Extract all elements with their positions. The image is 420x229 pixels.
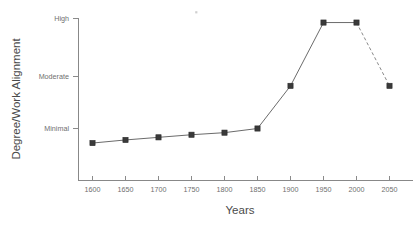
line-chart-svg: High Moderate Minimal 1600 1650 1700 175…: [0, 0, 420, 229]
x-axis-ticks: 1600 1650 1700 1750 1800 1850 1900 1950 …: [85, 176, 398, 195]
series-segment-1800-1850: [225, 129, 258, 133]
series-segment-1700-1750: [159, 135, 192, 138]
y-tick-label-high: High: [54, 14, 69, 23]
series-segment-1750-1800: [192, 133, 225, 135]
data-point-1600[interactable]: [90, 140, 95, 145]
y-tick-label-moderate: Moderate: [39, 72, 69, 81]
data-point-1850[interactable]: [255, 126, 260, 131]
series-segment-1650-1700: [126, 137, 159, 140]
x-tick-label-1700: 1700: [151, 185, 167, 194]
chart-container: High Moderate Minimal 1600 1650 1700 175…: [0, 0, 420, 229]
x-tick-label-1600: 1600: [85, 185, 101, 194]
data-point-1700[interactable]: [156, 135, 161, 140]
x-tick-label-2050: 2050: [382, 185, 398, 194]
data-point-1900[interactable]: [288, 83, 293, 88]
series-segment-2000-2050: [357, 23, 390, 86]
y-axis-title: Degree/Work Alignment: [10, 38, 22, 160]
data-point-1750[interactable]: [189, 132, 194, 137]
data-point-1800[interactable]: [222, 130, 227, 135]
y-axis-ticks: High Moderate Minimal: [39, 14, 79, 133]
data-point-2000[interactable]: [354, 20, 359, 25]
data-point-1950[interactable]: [321, 20, 326, 25]
x-tick-label-1650: 1650: [118, 185, 134, 194]
data-point-2050[interactable]: [387, 83, 392, 88]
x-tick-label-2000: 2000: [349, 185, 365, 194]
x-tick-label-1800: 1800: [217, 185, 233, 194]
series-segment-1850-1900: [258, 86, 291, 129]
x-tick-label-1950: 1950: [316, 185, 332, 194]
series-segment-1600-1650: [93, 140, 126, 143]
x-tick-label-1750: 1750: [184, 185, 200, 194]
data-point-1650[interactable]: [123, 137, 128, 142]
series-layer: [90, 20, 392, 146]
x-axis-title: Years: [226, 204, 255, 216]
series-segment-1900-1950: [291, 23, 324, 86]
y-tick-label-minimal: Minimal: [44, 124, 69, 133]
x-tick-label-1900: 1900: [283, 185, 299, 194]
x-tick-label-1850: 1850: [250, 185, 266, 194]
image-speck-artifact: [195, 11, 197, 13]
